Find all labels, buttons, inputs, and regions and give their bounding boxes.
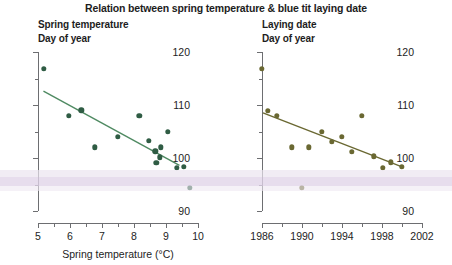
y-tick-label: 120 (396, 46, 414, 58)
data-point (265, 108, 270, 113)
data-point (66, 113, 71, 118)
data-point (187, 185, 192, 190)
y-tick-label: 110 (397, 99, 414, 111)
x-tick-label: 1998 (370, 230, 393, 242)
y-tick-minor (259, 132, 263, 133)
data-point (146, 138, 151, 143)
x-tick-major (422, 223, 423, 228)
panel-subtitle-left: Day of year (38, 33, 91, 44)
data-point (78, 108, 83, 113)
x-tick-minor (118, 223, 119, 227)
x-tick-major (102, 223, 103, 228)
data-point (349, 149, 354, 154)
x-tick-major (382, 223, 383, 228)
x-tick-minor (402, 223, 403, 227)
y-tick-minor (35, 79, 39, 80)
x-tick-major (38, 223, 39, 228)
x-tick-label: 1994 (330, 230, 353, 242)
data-point (165, 129, 170, 134)
y-tick-label: 90 (178, 205, 190, 217)
data-point (154, 160, 159, 165)
y-tick-major (33, 211, 38, 212)
y-tick-label: 100 (396, 152, 414, 164)
data-point (319, 129, 324, 134)
x-tick-minor (362, 223, 363, 227)
y-tick-minor (35, 185, 39, 186)
y-axis-right (262, 52, 263, 211)
x-tick-major (166, 223, 167, 228)
y-tick-major (33, 52, 38, 53)
panel-title-left: Spring temperature (38, 19, 128, 30)
x-tick-label: 5 (35, 230, 41, 242)
data-point (181, 164, 186, 169)
x-tick-minor (182, 223, 183, 227)
data-point (92, 145, 97, 150)
y-tick-minor (259, 185, 263, 186)
x-tick-label: 9 (163, 230, 169, 242)
y-tick-minor (35, 132, 39, 133)
x-tick-label: 6 (67, 230, 73, 242)
chart-panel-laying-date: Laying date Day of year 9010011012019861… (222, 0, 452, 265)
y-tick-major (257, 105, 262, 106)
y-tick-major (33, 105, 38, 106)
x-tick-minor (86, 223, 87, 227)
data-point (388, 160, 393, 165)
data-point (157, 155, 162, 160)
data-point (289, 145, 294, 150)
x-tick-label: 1990 (290, 230, 313, 242)
data-point (115, 134, 120, 139)
y-tick-major (257, 158, 262, 159)
data-point (371, 154, 376, 159)
x-tick-major (134, 223, 135, 228)
x-tick-minor (322, 223, 323, 227)
x-tick-label: 10 (192, 230, 204, 242)
plot-area-left: 901001101205678910 Spring temperature (°… (38, 52, 198, 211)
data-point (259, 66, 264, 71)
x-tick-major (262, 223, 263, 228)
data-point (174, 165, 179, 170)
y-tick-label: 100 (172, 152, 190, 164)
x-tick-major (342, 223, 343, 228)
x-tick-major (70, 223, 71, 228)
y-tick-minor (259, 79, 263, 80)
panel-title-right: Laying date (262, 19, 316, 30)
x-tick-minor (54, 223, 55, 227)
x-tick-label: 2002 (410, 230, 433, 242)
x-tick-minor (150, 223, 151, 227)
y-tick-label: 120 (172, 46, 190, 58)
trendline-left (38, 52, 198, 211)
y-tick-major (257, 211, 262, 212)
figure-root: Relation between spring temperature & bl… (0, 0, 452, 265)
y-tick-major (257, 52, 262, 53)
data-point (274, 113, 279, 118)
data-point (329, 139, 334, 144)
chart-panel-spring-temperature: Spring temperature Day of year 901001101… (0, 0, 230, 265)
y-axis-left (38, 52, 39, 211)
x-tick-label: 8 (131, 230, 137, 242)
data-point (399, 164, 404, 169)
trendline-right (262, 52, 422, 211)
plot-area-right: 9010011012019861990199419982002 (262, 52, 422, 211)
data-point (359, 113, 364, 118)
data-point (158, 145, 163, 150)
data-point (137, 113, 142, 118)
data-point (306, 145, 311, 150)
x-tick-label: 7 (99, 230, 105, 242)
y-tick-label: 110 (173, 99, 190, 111)
x-tick-major (302, 223, 303, 228)
x-tick-minor (282, 223, 283, 227)
y-tick-major (33, 158, 38, 159)
y-tick-label: 90 (402, 205, 414, 217)
data-point (380, 165, 385, 170)
x-tick-major (198, 223, 199, 228)
data-point (339, 134, 344, 139)
data-point (41, 66, 46, 71)
panel-subtitle-right: Day of year (262, 33, 315, 44)
data-point (299, 185, 304, 190)
data-point (153, 148, 158, 153)
x-axis-caption-left: Spring temperature (°C) (38, 248, 198, 260)
x-tick-label: 1986 (250, 230, 273, 242)
